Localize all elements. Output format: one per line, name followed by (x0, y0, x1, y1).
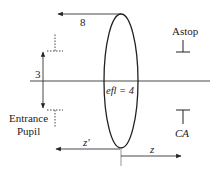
lens-efl-label: efl = 4 (106, 86, 134, 97)
pupil-half-height-label: 3 (35, 69, 41, 80)
height-8-label: 8 (80, 17, 86, 28)
clear-aperture-label: CA (175, 128, 189, 139)
entrance-pupil-label-line1: Entrance (9, 113, 48, 124)
z-prime-label: z' (83, 137, 90, 148)
entrance-pupil-label-line2: Pupil (17, 126, 40, 137)
z-label: z (150, 144, 154, 155)
aperture-stop-label: Astop (172, 26, 198, 37)
